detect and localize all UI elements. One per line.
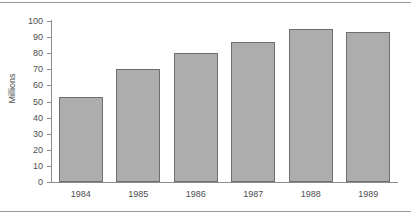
y-axis-tick [47,182,52,183]
x-axis-line [51,182,398,183]
top-divider-rule [0,2,411,3]
x-axis-tick-label: 1986 [166,190,226,199]
y-axis-tick-label: 10 [3,162,43,171]
plot-area [52,21,397,182]
x-axis-tick-label: 1988 [281,190,341,199]
y-axis-tick-label: 70 [3,65,43,74]
bar-chart-figure: Millions 1009080706050403020100 19841985… [0,0,411,217]
bar [346,32,390,182]
y-axis-tick-label: 20 [3,146,43,155]
y-axis-tick-label: 60 [3,81,43,90]
bottom-divider-rule [0,211,411,212]
bar [116,69,160,182]
x-axis-tick-label: 1987 [223,190,283,199]
y-axis-tick-label: 30 [3,130,43,139]
y-axis-tick-label: 50 [3,98,43,107]
y-axis-tick-label: 40 [3,114,43,123]
bar [289,29,333,182]
y-axis-tick-label: 80 [3,49,43,58]
x-axis-tick-label: 1985 [108,190,168,199]
x-axis-tick-label: 1989 [338,190,398,199]
y-axis-tick-label: 0 [3,178,43,187]
y-axis-tick-label: 100 [3,17,43,26]
x-axis-tick-label: 1984 [51,190,111,199]
bar [59,97,103,182]
bar [231,42,275,182]
y-axis-tick-label: 90 [3,33,43,42]
bar [174,53,218,182]
